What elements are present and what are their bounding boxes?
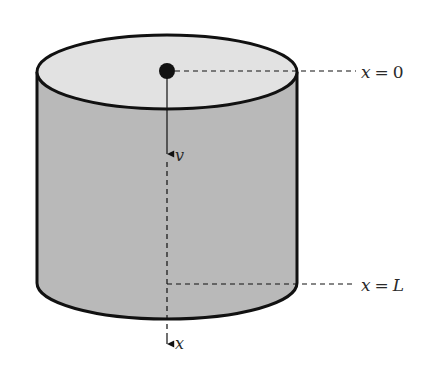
label-x-axis: x (175, 334, 184, 353)
center-point (159, 63, 175, 79)
label-x-equals-0: x=0 (361, 62, 404, 82)
cylinder-diagram: x=0 v x=L x (0, 0, 431, 367)
label-x-equals-L: x=L (361, 275, 404, 295)
label-velocity: v (175, 146, 184, 165)
